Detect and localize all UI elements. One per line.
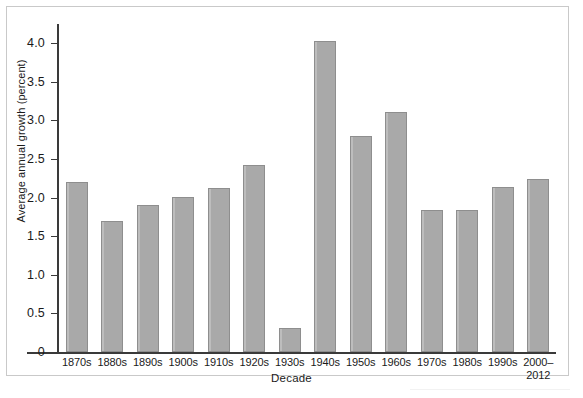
plot-area [59,24,556,352]
x-axis-line [27,352,556,354]
y-tick-label: 1.5 [17,229,51,243]
y-axis-title: Average annual growth (percent) [15,21,27,261]
bar [172,197,194,352]
bar [385,112,407,352]
bar [137,205,159,352]
bar [421,210,443,352]
bar [66,182,88,352]
x-tick-label-line: 2000– [512,356,564,369]
y-tick-label: 0.5 [17,306,51,320]
bar [314,41,336,352]
y-tick-label: 3.5 [17,75,51,89]
y-tick-label: 2.0 [17,191,51,205]
bar [456,210,478,352]
x-axis-title: Decade [0,372,583,384]
bar-chart: Average annual growth (percent) 00.51.01… [0,0,583,398]
y-tick-label: 1.0 [17,268,51,282]
y-tick-mark [51,82,57,83]
bar [527,179,549,352]
scan-artifact [410,389,570,390]
y-tick-label: 2.5 [17,152,51,166]
y-tick-mark [51,236,57,237]
y-tick-mark [51,275,57,276]
bar [208,188,230,352]
bar [243,165,265,352]
bar [279,328,301,352]
y-tick-mark [51,352,57,353]
y-tick-label: 4.0 [17,36,51,50]
bar [492,187,514,352]
y-tick-mark [51,120,57,121]
y-tick-mark [51,313,57,314]
y-tick-label: 3.0 [17,113,51,127]
y-tick-mark [51,43,57,44]
bar [101,221,123,352]
y-tick-mark [51,198,57,199]
bar [350,136,372,352]
y-tick-label: 0 [17,345,51,359]
y-tick-mark [51,159,57,160]
